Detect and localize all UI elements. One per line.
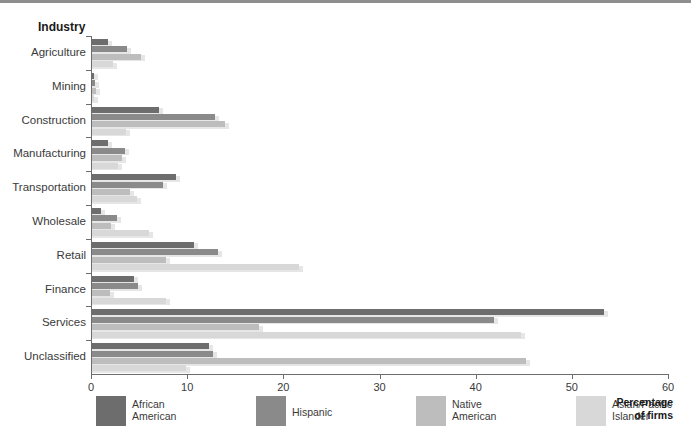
bar-retail-african-american [92,242,194,248]
y-tick-3 [86,137,91,138]
x-tick-label-0: 0 [88,381,94,393]
bar-construction-native-american [92,121,225,127]
x-tick-40 [476,374,477,379]
category-label-manufacturing: Manufacturing [0,147,86,159]
bar-wholesale-native-american [92,223,111,229]
x-tick-label-20: 20 [277,381,289,393]
bar-manufacturing-asian-pacific-islander [92,163,118,169]
category-label-construction: Construction [0,114,86,126]
bar-wholesale-asian-pacific-islander [92,230,149,236]
legend-hispanic-label: Hispanic [292,396,332,418]
category-label-mining: Mining [0,80,86,92]
x-tick-label-40: 40 [470,381,482,393]
bar-mining-african-american [92,73,94,79]
bar-manufacturing-african-american [92,140,108,146]
bar-finance-african-american [92,276,134,282]
bar-unclassified-african-american [92,343,209,349]
category-label-unclassified: Unclassified [0,350,86,362]
legend-hispanic[interactable]: Hispanic [256,396,332,426]
bar-finance-asian-pacific-islander [92,298,166,304]
bar-transportation-hispanic [92,182,163,188]
bar-transportation-african-american [92,174,176,180]
bar-retail-asian-pacific-islander [92,264,299,270]
bar-agriculture-hispanic [92,46,127,52]
x-tick-0 [91,374,92,379]
bar-unclassified-asian-pacific-islander [92,365,186,371]
bar-wholesale-african-american [92,208,101,214]
chart-legend: African AmericanHispanicNative AmericanA… [96,396,576,436]
bar-construction-hispanic [92,114,215,120]
legend-african-american-label: African American [132,396,176,422]
x-tick-label-50: 50 [566,381,578,393]
bar-finance-native-american [92,290,110,296]
legend-native-american-swatch [416,396,446,426]
legend-native-american[interactable]: Native American [416,396,496,426]
y-tick-2 [86,104,91,105]
legend-native-american-label: Native American [452,396,496,422]
page-title: Industry [38,20,85,34]
x-tick-50 [572,374,573,379]
bar-agriculture-native-american [92,54,141,60]
x-tick-60 [668,374,669,379]
legend-african-american-swatch [96,396,126,426]
bar-services-hispanic [92,317,494,323]
category-label-agriculture: Agriculture [0,46,86,58]
y-tick-9 [86,340,91,341]
y-tick-6 [86,239,91,240]
bar-services-asian-pacific-islander [92,332,521,338]
legend-asian-pacific-islander-swatch [576,396,606,426]
bar-retail-hispanic [92,249,218,255]
bar-wholesale-hispanic [92,215,117,221]
y-tick-0 [86,36,91,37]
category-label-retail: Retail [0,249,86,261]
bar-mining-asian-pacific-islander [92,95,94,101]
bar-construction-asian-pacific-islander [92,129,126,135]
x-tick-10 [187,374,188,379]
category-label-services: Services [0,316,86,328]
bar-agriculture-asian-pacific-islander [92,61,113,67]
x-tick-label-10: 10 [181,381,193,393]
bar-manufacturing-hispanic [92,148,125,154]
bar-construction-african-american [92,107,159,113]
x-axis-title: Percentage of firms [616,396,673,422]
bar-unclassified-hispanic [92,351,213,357]
y-tick-8 [86,306,91,307]
y-tick-1 [86,70,91,71]
x-tick-label-60: 60 [662,381,674,393]
x-tick-20 [283,374,284,379]
legend-african-american[interactable]: African American [96,396,176,426]
bar-services-native-american [92,324,259,330]
bar-agriculture-african-american [92,39,108,45]
bar-finance-hispanic [92,283,138,289]
bar-services-african-american [92,309,604,315]
y-tick-7 [86,273,91,274]
bar-transportation-asian-pacific-islander [92,196,137,202]
bar-manufacturing-native-american [92,155,122,161]
bar-mining-native-american [92,88,96,94]
y-tick-4 [86,171,91,172]
bar-mining-hispanic [92,80,95,86]
top-divider-rule [0,0,691,3]
industry-percentage-bar-chart: Industry 0102030405060 AgricultureMining… [0,0,691,446]
bar-transportation-native-american [92,189,130,195]
category-label-finance: Finance [0,283,86,295]
x-tick-30 [380,374,381,379]
legend-hispanic-swatch [256,396,286,426]
x-tick-label-30: 30 [373,381,385,393]
category-label-wholesale: Wholesale [0,215,86,227]
bar-retail-native-american [92,257,166,263]
bar-unclassified-native-american [92,358,526,364]
y-tick-5 [86,205,91,206]
category-label-transportation: Transportation [0,181,86,193]
